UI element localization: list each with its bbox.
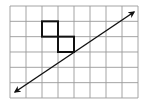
outlined-square [42,21,58,36]
outlined-square [58,37,74,52]
grid-diagram [0,0,145,101]
outlined-squares [42,21,74,52]
